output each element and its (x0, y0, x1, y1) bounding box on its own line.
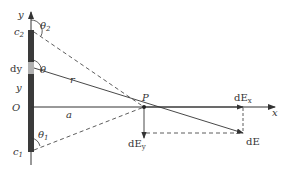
c1-label: c1 (13, 146, 23, 159)
dEx-label: dEx (234, 92, 252, 105)
y-axis-label: y (17, 9, 24, 20)
dy-label: dy (10, 63, 22, 74)
dE-label: dE (246, 136, 260, 147)
p-label: P (141, 92, 149, 103)
dEy-label: dEy (128, 138, 146, 151)
theta1-label: θ1 (38, 129, 49, 142)
a-label: a (66, 109, 72, 120)
y-position-label: y (15, 82, 22, 93)
origin-label: O (12, 102, 20, 113)
point-p (142, 105, 146, 109)
r-line (34, 68, 243, 133)
r-label: r (70, 74, 76, 85)
theta2-label: θ2 (40, 20, 51, 33)
theta-label: θ (40, 64, 46, 75)
dy-segment (28, 62, 34, 74)
rod-field-diagram: y c2 θ2 dy θ y r O a θ1 c1 P x dEx dEy d… (0, 0, 287, 176)
charged-rod (28, 30, 34, 152)
dashed-c2-to-p (34, 32, 144, 107)
c2-label: c2 (14, 26, 25, 39)
x-axis-label: x (272, 107, 278, 118)
